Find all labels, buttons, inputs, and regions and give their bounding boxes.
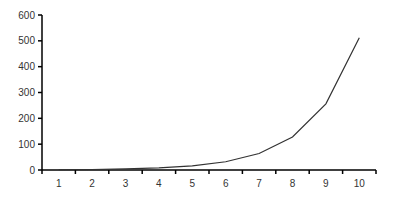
y-tick-label: 0: [29, 165, 35, 176]
x-tick-label: 6: [223, 178, 229, 189]
y-tick-label: 300: [18, 87, 35, 98]
x-tick-label: 5: [190, 178, 196, 189]
y-axis: 0100200300400500600: [18, 10, 42, 176]
y-tick-label: 600: [18, 10, 35, 21]
y-tick-label: 100: [18, 139, 35, 150]
line-chart: 0100200300400500600 12345678910: [0, 0, 395, 201]
x-tick-label: 9: [323, 178, 329, 189]
y-tick-label: 500: [18, 35, 35, 46]
x-tick-label: 3: [123, 178, 129, 189]
x-tick-label: 7: [256, 178, 262, 189]
y-tick-label: 200: [18, 113, 35, 124]
series-line: [59, 38, 360, 170]
x-tick-label: 10: [354, 178, 366, 189]
x-tick-label: 8: [290, 178, 296, 189]
x-tick-label: 2: [89, 178, 95, 189]
plot-area: [59, 38, 360, 170]
y-tick-label: 400: [18, 61, 35, 72]
x-axis: 12345678910: [42, 170, 376, 189]
x-tick-label: 1: [56, 178, 62, 189]
x-tick-label: 4: [156, 178, 162, 189]
